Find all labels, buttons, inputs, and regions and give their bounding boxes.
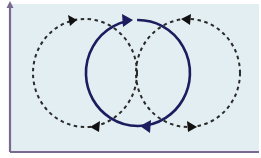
cycle-diagram (0, 0, 261, 158)
plot-area (11, 4, 259, 151)
diagram-canvas (0, 0, 261, 158)
